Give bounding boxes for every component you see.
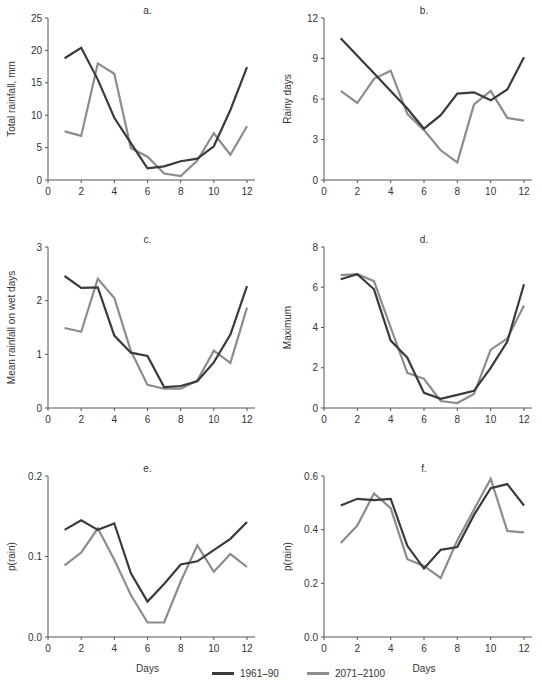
x-tick-label: 2: [355, 186, 361, 197]
x-tick-label: 2: [355, 643, 361, 654]
x-tick-label: 10: [485, 643, 497, 654]
x-tick-label: 2: [78, 643, 84, 654]
y-tick-label: 0.0: [304, 632, 318, 643]
series-line-2071-2100: [65, 528, 247, 622]
y-tick-label: 4: [312, 322, 318, 333]
series-line-2071-2100: [341, 274, 524, 403]
panel-title: d.: [420, 234, 428, 245]
x-tick-label: 4: [112, 186, 118, 197]
series-line-1961-90: [65, 48, 247, 169]
y-tick-label: 12: [307, 13, 319, 24]
y-axis-label: Rainy days: [282, 74, 293, 123]
series-line-2071-2100: [341, 479, 524, 578]
panel-title: c.: [144, 234, 152, 245]
x-tick-label: 8: [178, 643, 184, 654]
legend-item-1961-90: 1961–90: [212, 668, 279, 679]
series-line-2071-2100: [65, 63, 247, 176]
y-tick-label: 25: [31, 13, 43, 24]
x-tick-label: 8: [178, 186, 184, 197]
x-tick-label: 0: [321, 414, 327, 425]
chart-grid: a.0246810120510152025Total rainfall, mmb…: [0, 0, 542, 689]
series-line-1961-90: [341, 274, 524, 399]
y-tick-label: 3: [36, 242, 42, 253]
x-tick-label: 10: [485, 186, 497, 197]
x-tick-label: 12: [241, 643, 253, 654]
panel-title: e.: [143, 463, 151, 474]
legend: 1961–90 2071–2100: [212, 668, 385, 679]
x-tick-label: 4: [112, 643, 118, 654]
x-tick-label: 6: [145, 414, 151, 425]
y-tick-label: 2: [36, 295, 42, 306]
x-tick-label: 12: [518, 643, 530, 654]
y-tick-label: 0.1: [28, 551, 42, 562]
x-tick-label: 6: [421, 414, 427, 425]
x-tick-label: 8: [455, 414, 461, 425]
panel-title: b.: [420, 5, 428, 16]
y-tick-label: 0.6: [304, 471, 318, 482]
x-tick-label: 2: [78, 414, 84, 425]
y-tick-label: 6: [312, 94, 318, 105]
series-line-1961-90: [65, 520, 247, 601]
x-tick-label: 0: [321, 186, 327, 197]
y-axis-label: Total rainfall, mm: [6, 61, 17, 137]
y-tick-label: 0.2: [28, 471, 42, 482]
y-tick-label: 15: [31, 77, 43, 88]
x-tick-label: 4: [388, 414, 394, 425]
x-tick-label: 0: [45, 414, 51, 425]
y-tick-label: 1: [36, 349, 42, 360]
x-tick-label: 0: [45, 186, 51, 197]
series-line-1961-90: [341, 38, 524, 128]
x-tick-label: 8: [455, 186, 461, 197]
y-axis-label: p(rain): [282, 542, 293, 571]
legend-swatch-dark: [212, 672, 234, 675]
y-axis-label: Maximum: [282, 306, 293, 349]
x-tick-label: 12: [518, 414, 530, 425]
x-tick-label: 8: [455, 643, 461, 654]
x-tick-label: 6: [421, 186, 427, 197]
x-tick-label: 2: [355, 414, 361, 425]
x-tick-label: 12: [241, 414, 253, 425]
x-tick-label: 0: [321, 643, 327, 654]
series-line-2071-2100: [341, 71, 524, 163]
y-axis-label: p(rain): [6, 542, 17, 571]
legend-label: 2071–2100: [335, 668, 385, 679]
x-tick-label: 6: [421, 643, 427, 654]
x-axis-label: Days: [413, 663, 436, 674]
y-tick-label: 8: [312, 242, 318, 253]
panel-title: f.: [421, 463, 427, 474]
x-tick-label: 12: [518, 186, 530, 197]
y-tick-label: 9: [312, 53, 318, 64]
x-tick-label: 6: [145, 643, 151, 654]
y-axis-label: Mean rainfall on wet days: [6, 271, 17, 384]
y-tick-label: 0: [312, 175, 318, 186]
y-tick-label: 20: [31, 45, 43, 56]
x-tick-label: 6: [145, 186, 151, 197]
x-tick-label: 10: [208, 186, 220, 197]
x-tick-label: 10: [485, 414, 497, 425]
legend-item-2071-2100: 2071–2100: [307, 668, 385, 679]
legend-label: 1961–90: [240, 668, 279, 679]
y-tick-label: 2: [312, 362, 318, 373]
y-tick-label: 0: [36, 175, 42, 186]
legend-swatch-light: [307, 672, 329, 675]
x-tick-label: 4: [388, 643, 394, 654]
y-tick-label: 5: [36, 142, 42, 153]
x-tick-label: 10: [208, 643, 220, 654]
x-tick-label: 8: [178, 414, 184, 425]
x-tick-label: 2: [78, 186, 84, 197]
series-line-1961-90: [65, 276, 247, 387]
panel-title: a.: [143, 5, 151, 16]
x-tick-label: 0: [45, 643, 51, 654]
x-axis-label: Days: [136, 663, 159, 674]
y-tick-label: 0: [312, 403, 318, 414]
y-tick-label: 0: [36, 403, 42, 414]
x-tick-label: 4: [388, 186, 394, 197]
y-tick-label: 0.4: [304, 524, 318, 535]
y-tick-label: 0.0: [28, 632, 42, 643]
y-tick-label: 3: [312, 134, 318, 145]
y-tick-label: 10: [31, 110, 43, 121]
x-tick-label: 4: [112, 414, 118, 425]
y-tick-label: 6: [312, 282, 318, 293]
x-tick-label: 12: [241, 186, 253, 197]
x-tick-label: 10: [208, 414, 220, 425]
